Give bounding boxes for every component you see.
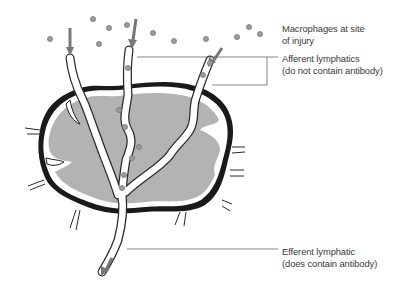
- macrophage: [129, 155, 134, 160]
- afferent-label: Afferent lymphatics (do not contain anti…: [282, 53, 383, 76]
- afferent-label-line2: (do not contain antibody): [282, 65, 383, 77]
- macrophage: [90, 16, 95, 21]
- afferent-arrow-2-shaft: [133, 19, 136, 40]
- macrophage: [125, 65, 130, 70]
- macrophage: [121, 172, 126, 177]
- macrophages-label-line2: of injury: [282, 35, 365, 47]
- macrophage: [234, 34, 239, 39]
- efferent-label-line2: (does contain antibody): [282, 258, 377, 270]
- peripheral-vessel: [222, 200, 232, 211]
- peripheral-vessel: [230, 170, 244, 176]
- macrophage: [200, 72, 205, 77]
- macrophage: [171, 38, 176, 43]
- macrophage: [119, 185, 124, 190]
- macrophage: [246, 24, 251, 29]
- macrophages-label: Macrophages at site of injury: [282, 23, 365, 46]
- afferent-label-line1: Afferent lymphatics: [282, 53, 383, 65]
- efferent-label-line1: Efferent lymphatic: [282, 246, 377, 258]
- efferent-label: Efferent lymphatic (does contain antibod…: [282, 246, 377, 269]
- macrophage: [257, 31, 262, 36]
- macrophage: [116, 107, 121, 112]
- peripheral-vessel: [232, 147, 245, 153]
- afferent-arrow-3-shaft: [214, 48, 222, 60]
- macrophage: [96, 41, 101, 46]
- macrophage: [124, 22, 129, 27]
- macrophage: [136, 144, 141, 149]
- afferent-bracket: [212, 57, 267, 85]
- macrophage: [47, 36, 52, 41]
- macrophage: [150, 30, 155, 35]
- macrophage: [207, 60, 212, 65]
- macrophages-label-line1: Macrophages at site: [282, 23, 365, 35]
- macrophage: [122, 124, 127, 129]
- macrophage: [203, 36, 208, 41]
- macrophage: [106, 25, 111, 30]
- peripheral-vessel: [25, 128, 40, 134]
- peripheral-vessel: [175, 212, 186, 226]
- peripheral-vessel: [28, 180, 45, 190]
- peripheral-vessel: [70, 210, 80, 230]
